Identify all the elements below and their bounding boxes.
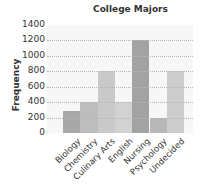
chart-title: College Majors	[60, 4, 201, 14]
y-tick-label: 800	[0, 65, 45, 75]
y-tick-label: 400	[0, 96, 45, 106]
gridline	[47, 102, 193, 103]
gridline	[47, 71, 193, 72]
y-tick-label: 200	[0, 112, 45, 122]
y-tick-label: 1200	[0, 34, 45, 44]
bar-biology	[63, 111, 80, 133]
gridline	[47, 56, 193, 57]
gridline	[47, 118, 193, 119]
y-tick-label: 1000	[0, 50, 45, 60]
y-tick-label: 1400	[0, 19, 45, 29]
gridline	[47, 87, 193, 88]
bar-psychology	[150, 118, 167, 133]
y-tick-label: 0	[0, 127, 45, 137]
y-tick-label: 600	[0, 81, 45, 91]
gridline	[47, 40, 193, 41]
